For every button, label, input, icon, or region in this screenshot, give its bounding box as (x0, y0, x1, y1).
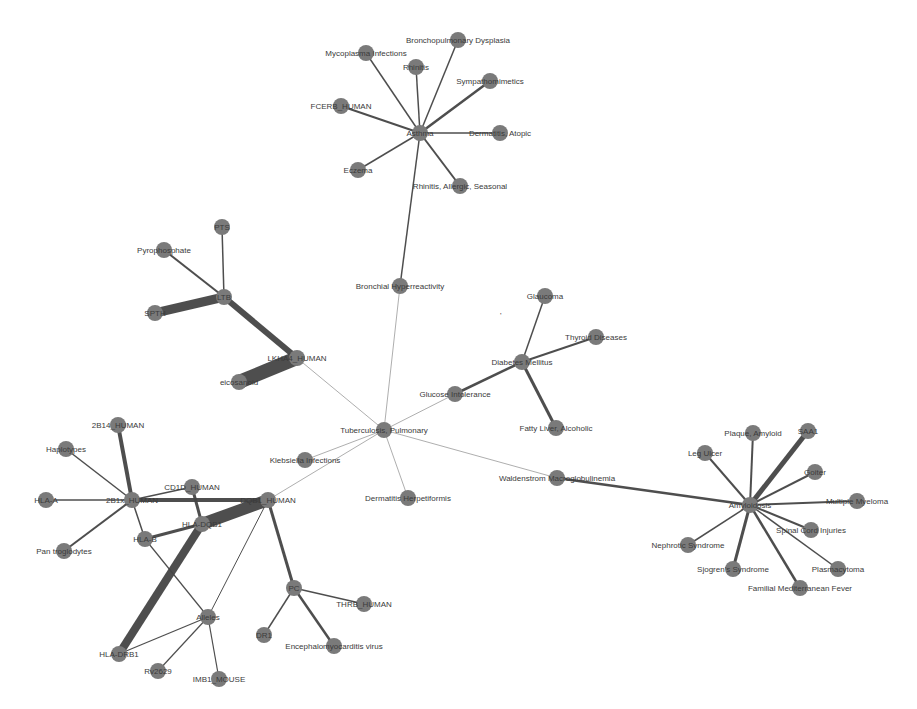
node-label-myeloma: Multiple Myeloma (826, 497, 889, 506)
node-label-klebsiella: Klebsiella Infections (270, 456, 341, 465)
node-label-mycoplasma: Mycoplasma Infections (325, 49, 406, 58)
node-label-hla_a: HLA-A (34, 496, 58, 505)
edge-diabetes-fatty_liver (522, 362, 556, 428)
node-label-fcerb: FCERB_HUMAN (311, 102, 372, 111)
node-label-spth: SPTH (144, 309, 166, 318)
edge-amyloidosis-fmf (750, 505, 800, 588)
edge-bronchial-tb (384, 286, 400, 430)
edge-tb-dqb1 (268, 430, 384, 500)
node-label-imb1: IMB1_MOUSE (193, 675, 245, 684)
node-label-rv2629: Rv2629 (144, 667, 172, 676)
edge-2b1x-2b14 (118, 425, 132, 500)
node-label-thrb: THRB_HUMAN (336, 600, 392, 609)
node-label-thyroid: Thyroid Diseases (565, 333, 627, 342)
stray-mark: ' (500, 311, 502, 320)
edge-lkha4-tb (297, 358, 384, 430)
node-label-pts: PTS (214, 223, 230, 232)
node-label-lkha4: LKHA4_HUMAN (267, 354, 326, 363)
node-label-rhinitis: Rhinitis (403, 63, 429, 72)
graph-canvas: AsthmaMycoplasma InfectionsRhinitisBronc… (0, 0, 917, 709)
edge-pc-dr1 (264, 588, 294, 635)
node-label-2b1x: 2B1x_HUMAN (106, 496, 158, 505)
node-label-bronchial: Bronchial Hyperreactivity (356, 282, 444, 291)
node-label-glaucoma: Glaucoma (527, 292, 564, 301)
node-label-tb: Tuberculosis, Pulmonary (340, 426, 428, 435)
node-label-eczema: Eczema (344, 166, 373, 175)
node-label-sjogren: Sjogren's Syndrome (697, 565, 769, 574)
node-label-plasmacytoma: Plasmacytoma (812, 565, 865, 574)
node-label-hla_b: HLA-B (133, 535, 157, 544)
edge-asthma-bronchial (400, 133, 420, 286)
node-label-hla_dqb1: HLA-DQB1 (182, 520, 223, 529)
edge-amyloidosis-leg_ulcer (705, 453, 750, 505)
node-label-goiter: Goiter (804, 468, 826, 477)
edge-pc-emcv (294, 588, 334, 646)
edge-alleles-imb1 (208, 617, 219, 679)
node-label-cd1: CD1D_HUMAN (164, 483, 220, 492)
edge-amyloidosis-plaque (750, 433, 753, 505)
edge-asthma-rhinitis_allergic (420, 133, 460, 186)
network-diagram: AsthmaMycoplasma InfectionsRhinitisBronc… (0, 0, 917, 709)
node-label-leg_ulcer: Leg Ulcer (688, 449, 723, 458)
node-label-dermatitis_atopic: Dermatitis, Atopic (469, 129, 531, 138)
edge-asthma-eczema (358, 133, 420, 170)
node-label-dermatitis_herp: Dermatitis Herpetiformis (365, 494, 451, 503)
edge-tb-waldenstrom (384, 430, 557, 478)
node-label-emcv: Encephalomyocarditis virus (285, 642, 382, 651)
node-label-saa1: SAA1 (798, 427, 819, 436)
edges-layer (46, 40, 857, 679)
node-label-asthma: Asthma (406, 129, 434, 138)
edge-ltb-pts (222, 227, 224, 297)
node-label-waldenstrom: Waldenstrom Macroglobulinemia (499, 474, 616, 483)
node-label-pyrophosphate: Pyrophosphate (137, 246, 191, 255)
node-label-amyloidosis: Amyloidosis (729, 501, 772, 510)
node-label-plaque: Plaque, Amyloid (724, 429, 781, 438)
node-label-nephrotic: Nephrotic Syndrome (652, 541, 725, 550)
node-label-ltb: LTB (217, 293, 231, 302)
edge-tb-dermatitis_herp (384, 430, 408, 498)
node-label-dr1: DR1 (256, 631, 273, 640)
edge-diabetes-glaucoma (522, 296, 545, 362)
node-label-sympath: Sympathomimetics (456, 77, 524, 86)
node-label-2b14: 2B14_HUMAN (92, 421, 145, 430)
node-label-pc: PC (288, 584, 299, 593)
node-label-hla_drb1: HLA-DRB1 (99, 650, 139, 659)
edge-amyloidosis-saa1 (750, 431, 808, 505)
node-label-glucose: Glucose Intolerance (419, 390, 491, 399)
edge-2b1x-pan (64, 500, 132, 551)
edge-dqb1-pc (268, 500, 294, 588)
edge-ltb-pyrophosphate (164, 250, 224, 297)
node-label-bpd: Bronchopulmonary Dysplasia (406, 36, 511, 45)
node-label-rhinitis_allergic: Rhinitis, Allergic, Seasonal (413, 182, 507, 191)
node-label-alleles: Alleles (196, 613, 220, 622)
node-label-haplotypes: Haplotypes (46, 445, 86, 454)
node-label-eicosanoid: eicosanoid (220, 378, 258, 387)
edge-ltb-lkha4 (224, 297, 297, 358)
node-label-fmf: Familial Mediterranean Fever (748, 584, 852, 593)
edge-amyloidosis-plasmacytoma (750, 505, 838, 569)
edge-hla_dqb1-hla_drb1 (119, 524, 202, 654)
node-label-dqb1: DQB1_HUMAN (240, 496, 296, 505)
node-label-spinal: Spinal Cord Injuries (776, 526, 846, 535)
edge-alleles-rv2629 (158, 617, 208, 671)
edge-asthma-rhinitis (416, 67, 420, 133)
edge-glucose-tb (384, 394, 455, 430)
node-label-fatty_liver: Fatty Liver, Alcoholic (520, 424, 593, 433)
node-label-pan: Pan troglodytes (36, 547, 92, 556)
node-label-diabetes: Diabetes Mellitus (492, 358, 553, 367)
